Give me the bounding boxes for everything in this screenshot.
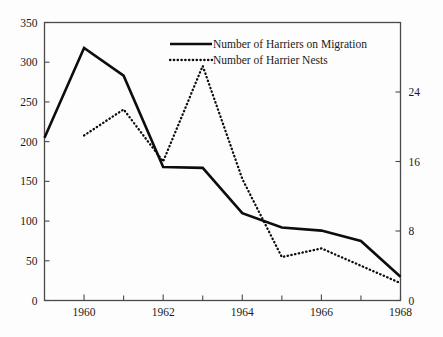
x-axis-tick-label: 1968 [389, 306, 412, 318]
data-series-group [45, 48, 401, 283]
series-line-harriers-on-migration [45, 48, 401, 277]
x-axis-tick-label: 1966 [310, 306, 333, 318]
left-axis-tick-label: 100 [20, 215, 38, 227]
left-axis-tick-label: 300 [20, 56, 38, 68]
right-axis-tick-label: 8 [409, 225, 415, 237]
x-axis-tick-label: 1962 [152, 306, 175, 318]
x-axis-tick-label: 1964 [231, 306, 254, 318]
legend-label: Number of Harrier Nests [213, 54, 328, 66]
series-line-harrier-nests [84, 66, 400, 283]
chart-legend: Number of Harriers on MigrationNumber of… [170, 38, 367, 66]
left-axis-tick-label: 50 [26, 255, 38, 267]
left-axis-tick-label: 0 [32, 295, 38, 307]
left-axis-tick-label: 250 [20, 96, 38, 108]
right-y-axis: 081624 [396, 86, 421, 307]
legend-label: Number of Harriers on Migration [213, 38, 367, 51]
left-axis-tick-label: 350 [20, 17, 38, 29]
left-axis-tick-label: 200 [20, 136, 38, 148]
x-axis: 19601962196419661968 [73, 295, 413, 318]
x-axis-tick-label: 1960 [73, 306, 96, 318]
line-chart: 050100150200250300350 081624 19601962196… [0, 0, 443, 337]
right-axis-tick-label: 24 [409, 86, 421, 98]
chart-container: 050100150200250300350 081624 19601962196… [0, 0, 443, 337]
right-axis-tick-label: 16 [409, 156, 421, 168]
left-axis-tick-label: 150 [20, 175, 38, 187]
